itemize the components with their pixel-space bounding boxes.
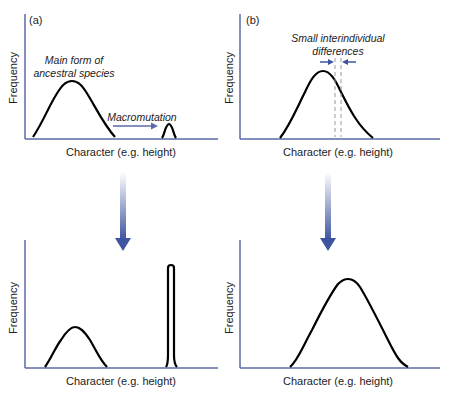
annotation-main-line1: Main form of	[45, 54, 104, 66]
y-axis-label: Frequency	[223, 52, 235, 104]
down-arrow-icon	[320, 238, 336, 251]
panel-a-bottom: Frequency Character (e.g. height)	[7, 240, 218, 387]
down-arrow-icon	[115, 238, 131, 251]
x-axis-label: Character (e.g. height)	[283, 375, 393, 387]
ancestral-distribution-curve	[45, 327, 107, 367]
x-axis-label: Character (e.g. height)	[283, 146, 393, 158]
panel-b-top: (b) Frequency Character (e.g. height) Sm…	[223, 14, 440, 158]
x-axis-label: Character (e.g. height)	[66, 146, 176, 158]
panel-label: (b)	[246, 14, 259, 26]
x-axis-label: Character (e.g. height)	[66, 375, 176, 387]
y-axis-label: Frequency	[223, 282, 235, 334]
y-axis-label: Frequency	[7, 52, 19, 104]
macromutation-label: Macromutation	[107, 111, 177, 123]
mutant-distribution-curve	[162, 124, 176, 138]
annotation-main-line2: ancestral species	[33, 67, 115, 79]
y-axis-label: Frequency	[7, 282, 19, 334]
population-distribution-curve	[280, 71, 373, 138]
transition-arrow-b	[320, 172, 336, 251]
panel-a-top: (a) Frequency Character (e.g. height) Ma…	[7, 14, 218, 158]
ancestral-distribution-curve	[33, 81, 115, 137]
transition-arrow-a	[115, 172, 131, 251]
arrowhead-icon	[328, 59, 334, 65]
new-species-spike	[166, 265, 177, 367]
arrowhead-icon	[151, 123, 158, 130]
shifted-distribution-curve	[290, 279, 408, 367]
panel-label: (a)	[29, 14, 42, 26]
annotation-line2: differences	[312, 45, 364, 57]
arrowhead-icon	[342, 59, 348, 65]
evolution-diagram: (a) Frequency Character (e.g. height) Ma…	[0, 0, 453, 401]
annotation-line1: Small interindividual	[291, 32, 385, 44]
panel-b-bottom: Frequency Character (e.g. height)	[223, 240, 440, 387]
